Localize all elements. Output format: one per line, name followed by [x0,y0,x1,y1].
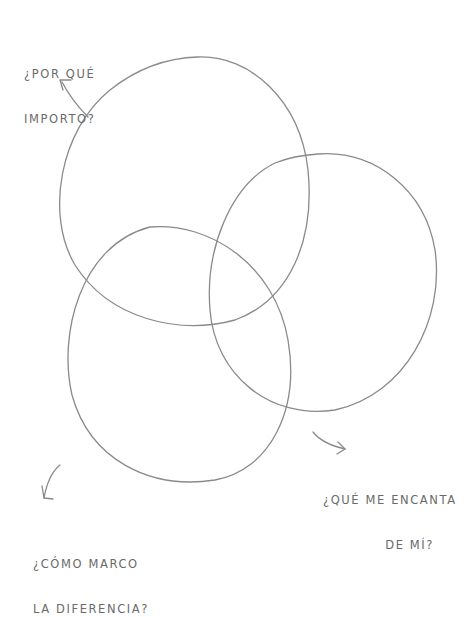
circle-what-i-love [209,154,436,412]
label-line: ¿QUÉ ME ENCANTA [323,493,448,508]
label-how-i-make-difference: ¿CÓMO MARCO LA DIFERENCIA? [33,527,149,617]
circle-why-i-matter [60,57,310,326]
circle-how-i-make-difference [68,227,291,482]
label-line: IMPORTO? [24,112,95,127]
label-line: ¿CÓMO MARCO [33,557,149,572]
label-why-i-matter: ¿POR QUÉ IMPORTO? [24,37,95,142]
label-what-i-love: ¿QUÉ ME ENCANTA DE MÍ? [323,463,448,568]
label-line: DE MÍ? [323,538,448,553]
arrow-right-icon [313,432,345,454]
label-line: LA DIFERENCIA? [33,602,149,617]
arrow-bottom-icon [42,465,60,499]
label-line: ¿POR QUÉ [24,67,95,82]
